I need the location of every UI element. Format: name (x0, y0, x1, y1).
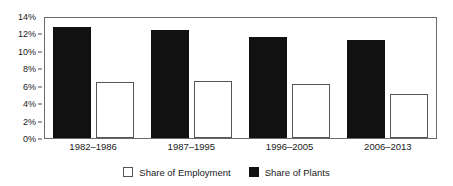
y-tick-label: 0% (23, 135, 36, 144)
plot-area: 0%2%4%6%8%10%12%14% (0, 0, 453, 150)
bar-group (338, 18, 436, 138)
bar-share-of-employment (96, 82, 134, 138)
y-tick-label: 8% (23, 65, 36, 74)
bar-group (241, 18, 339, 138)
bar-share-of-employment (194, 81, 232, 138)
legend-item: Share of Plants (249, 167, 330, 178)
y-tick-label: 10% (18, 47, 36, 56)
bar-group (45, 18, 143, 138)
x-tick-label: 1987–1995 (142, 141, 240, 157)
legend-swatch-filled-icon (249, 167, 259, 177)
x-tick-label: 1982–1986 (44, 141, 142, 157)
y-tick-mark (38, 121, 42, 122)
y-tick-mark (38, 86, 42, 87)
legend-label: Share of Plants (265, 167, 330, 178)
legend-label: Share of Employment (139, 167, 230, 178)
y-tick-label: 12% (18, 30, 36, 39)
y-tick-mark (38, 34, 42, 35)
bar-share-of-employment (390, 94, 428, 138)
bar-chart-figure: 0%2%4%6%8%10%12%14% 1982–19861987–199519… (0, 0, 453, 186)
y-tick-label: 6% (23, 82, 36, 91)
y-tick-label: 2% (23, 117, 36, 126)
y-tick-label: 14% (18, 13, 36, 22)
bar-share-of-plants (151, 30, 189, 138)
legend-item: Share of Employment (123, 167, 230, 178)
bar-share-of-plants (249, 37, 287, 138)
y-tick-mark (38, 139, 42, 140)
x-tick-label: 1996–2005 (241, 141, 339, 157)
bar-group (143, 18, 241, 138)
y-tick-mark (38, 51, 42, 52)
bar-share-of-plants (347, 40, 385, 138)
x-tick-label: 2006–2013 (339, 141, 437, 157)
bars-layer (45, 18, 436, 138)
y-tick-mark (38, 104, 42, 105)
plot-frame (44, 17, 437, 139)
x-axis: 1982–19861987–19951996–20052006–2013 (44, 141, 437, 157)
y-tick-mark (38, 69, 42, 70)
chart-legend: Share of EmploymentShare of Plants (0, 163, 453, 181)
bar-share-of-employment (292, 84, 330, 138)
y-axis: 0%2%4%6%8%10%12%14% (0, 0, 44, 150)
y-tick-label: 4% (23, 100, 36, 109)
bar-share-of-plants (53, 27, 91, 138)
legend-swatch-open-icon (123, 167, 133, 177)
